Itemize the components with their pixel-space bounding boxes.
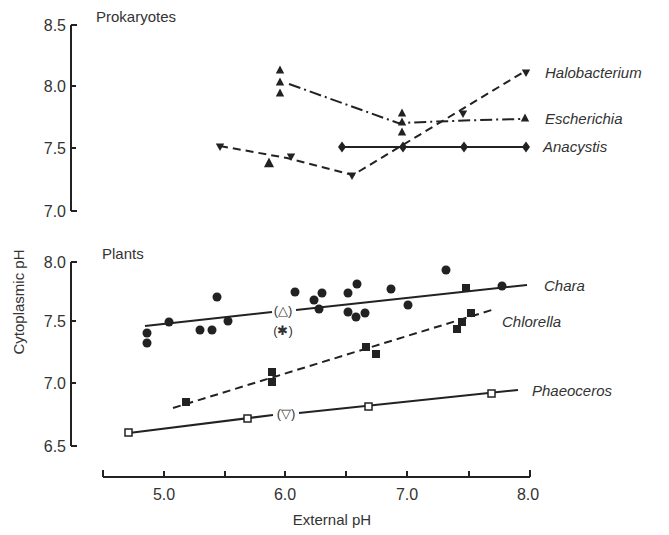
y-tick-8.0-bottom: 8.0 <box>44 254 66 271</box>
x-tick-7.0: 7.0 <box>396 486 418 503</box>
y-tick-7.5-bottom: 7.5 <box>44 313 66 330</box>
series-escherichia <box>264 66 529 168</box>
label-anacystis: Anacystis <box>542 138 608 155</box>
x-tick-8.0: 8.0 <box>517 486 539 503</box>
x-axis <box>103 470 530 477</box>
x-tick-6.0: 6.0 <box>274 486 296 503</box>
y-tick-7.5: 7.5 <box>44 140 66 157</box>
panel-title-plants: Plants <box>102 245 144 262</box>
series-halobacterium <box>216 70 530 181</box>
label-halobacterium: Halobacterium <box>545 64 642 81</box>
annotation-down-triangle: (▽) <box>277 406 296 421</box>
label-chara: Chara <box>544 277 585 294</box>
series-anacystis <box>338 142 530 153</box>
annotation-triangle: (△) <box>274 303 293 318</box>
bottom-y-axis <box>71 262 77 446</box>
top-y-axis <box>71 25 77 211</box>
x-tick-5.0: 5.0 <box>153 486 175 503</box>
y-tick-7.0-bottom: 7.0 <box>44 375 66 392</box>
panel-title-prokaryotes: Prokaryotes <box>96 8 176 25</box>
y-axis-label: Cytoplasmic pH <box>10 249 27 354</box>
series-chlorella <box>173 309 495 408</box>
y-tick-8.0: 8.0 <box>44 78 66 95</box>
label-escherichia: Escherichia <box>545 110 623 127</box>
y-tick-7.0: 7.0 <box>44 203 66 220</box>
y-tick-6.5-bottom: 6.5 <box>44 438 66 455</box>
x-axis-label: External pH <box>293 511 371 528</box>
label-phaeoceros: Phaeoceros <box>532 382 613 399</box>
series-chara <box>143 266 528 348</box>
y-tick-8.5: 8.5 <box>44 17 66 34</box>
series-phaeoceros <box>125 390 518 436</box>
annotation-star: (✱) <box>273 323 293 338</box>
label-chlorella: Chlorella <box>502 313 561 330</box>
ph-chart: Cytoplasmic pH 8.5 8.0 7.5 7.0 Prokaryot… <box>0 0 669 535</box>
